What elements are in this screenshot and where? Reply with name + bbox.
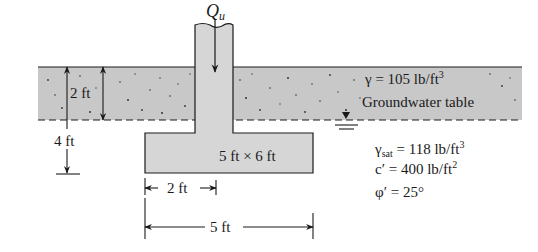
footing-depth-label: 4 ft (54, 133, 75, 149)
water-depth-label: 2 ft (70, 85, 91, 101)
cohesion-label: c′ = 400 lb/ft2 (375, 159, 457, 177)
friction-angle-label: φ′ = 25° (375, 184, 424, 200)
groundwater-label: Groundwater table (362, 94, 474, 110)
column-width-label: 2 ft (167, 180, 188, 196)
load-label: Qu (206, 1, 225, 23)
saturated-unit-weight-label: γsat = 118 lb/ft3 (374, 139, 464, 159)
upper-unit-weight-label: γ = 105 lb/ft3 (364, 69, 444, 87)
footing-size-label: 5 ft × 6 ft (219, 148, 277, 164)
footing-diagram: Qu 4 ft 2 ft 5 ft × 6 ft 2 ft 5 ft γ = 1… (0, 0, 538, 252)
footing-width-label: 5 ft (210, 219, 231, 235)
